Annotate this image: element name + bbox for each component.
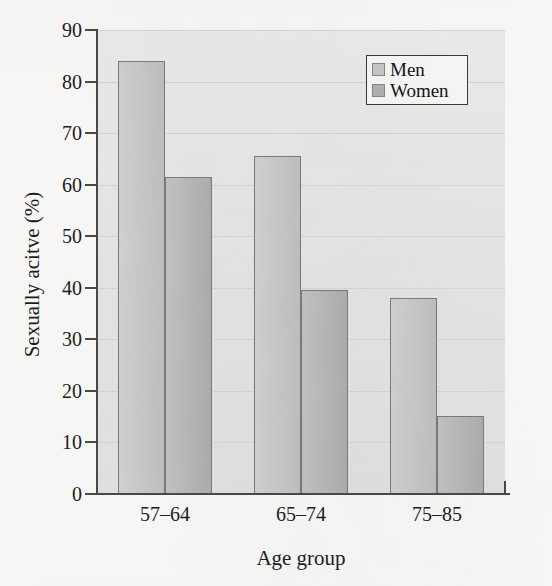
- legend: MenWomen: [366, 55, 468, 105]
- y-axis-tick-label: 10: [38, 432, 82, 452]
- bar-women-57-64: [165, 177, 212, 494]
- bar-shading: [302, 291, 347, 493]
- bar-chart-figure: 0102030405060708090 57–6465–7475–85 Sexu…: [0, 0, 552, 586]
- women-swatch: [372, 84, 385, 97]
- y-axis-tick-label: 40: [38, 278, 82, 298]
- x-axis-category-label: 75–85: [377, 503, 497, 526]
- x-axis-category-label: 65–74: [241, 503, 361, 526]
- bar-men-65-74: [254, 156, 301, 494]
- x-axis-category-label: 57–64: [105, 503, 225, 526]
- bar-men-57-64: [118, 61, 165, 494]
- y-axis-tick: [85, 390, 97, 392]
- gridline: [97, 30, 505, 31]
- y-axis-tick: [85, 184, 97, 186]
- x-axis-title: Age group: [97, 546, 505, 571]
- y-axis-tick: [85, 29, 97, 31]
- men-swatch: [372, 63, 385, 76]
- x-axis-end-tick: [504, 481, 506, 494]
- y-axis-tick-label: 70: [38, 123, 82, 143]
- y-axis-tick: [85, 235, 97, 237]
- x-axis-line: [96, 493, 510, 495]
- bar-shading: [166, 178, 211, 493]
- y-axis-tick-label: 20: [38, 381, 82, 401]
- bar-shading: [438, 417, 483, 493]
- y-axis-title: Sexually acitve (%): [20, 125, 45, 425]
- y-axis-tick-label: 60: [38, 175, 82, 195]
- y-axis-line: [96, 29, 98, 495]
- bar-women-65-74: [301, 290, 348, 494]
- bar-women-75-85: [437, 416, 484, 494]
- bar-shading: [255, 157, 300, 493]
- legend-label: Women: [390, 81, 449, 100]
- y-axis-tick-label: 30: [38, 329, 82, 349]
- legend-label: Men: [390, 60, 425, 79]
- y-axis-tick: [85, 338, 97, 340]
- y-axis-tick-label: 90: [38, 20, 82, 40]
- legend-item-men: Men: [372, 59, 467, 80]
- y-axis-tick: [85, 81, 97, 83]
- y-axis-tick-label: 0: [38, 484, 82, 504]
- legend-item-women: Women: [372, 80, 467, 101]
- bar-men-75-85: [390, 298, 437, 494]
- y-axis-tick-label: 80: [38, 72, 82, 92]
- y-axis-tick-label: 50: [38, 226, 82, 246]
- y-axis-tick: [85, 493, 97, 495]
- bar-shading: [391, 299, 436, 493]
- y-axis-tick: [85, 132, 97, 134]
- bar-shading: [119, 62, 164, 493]
- y-axis-tick: [85, 441, 97, 443]
- y-axis-tick: [85, 287, 97, 289]
